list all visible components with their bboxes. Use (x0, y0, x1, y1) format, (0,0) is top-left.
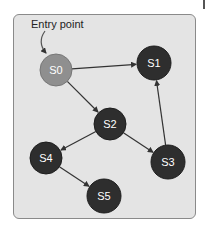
state-graph: Entry point S0S1S2S3S4S5 (0, 0, 207, 231)
node-s4: S4 (30, 142, 62, 174)
edge-s4-s5 (59, 167, 89, 186)
nodes: S0S1S2S3S4S5 (30, 46, 185, 213)
node-label: S4 (39, 152, 52, 164)
edge-s0-s1 (72, 64, 136, 69)
node-label: S2 (103, 118, 116, 130)
edge-s0-s2 (67, 81, 98, 112)
node-s5: S5 (87, 179, 121, 213)
node-label: S5 (97, 190, 110, 202)
node-label: S3 (161, 156, 174, 168)
edge-s2-s3 (123, 133, 153, 152)
node-label: S1 (147, 57, 160, 69)
node-s3: S3 (151, 145, 185, 179)
node-s1: S1 (137, 46, 171, 80)
node-s0: S0 (40, 54, 72, 86)
entry-point-label: Entry point (31, 18, 84, 30)
node-s2: S2 (94, 108, 126, 140)
node-label: S0 (49, 64, 62, 76)
entry-point-arrow (41, 31, 46, 53)
edge-s3-s1 (157, 81, 166, 145)
edge-s2-s4 (61, 132, 96, 151)
